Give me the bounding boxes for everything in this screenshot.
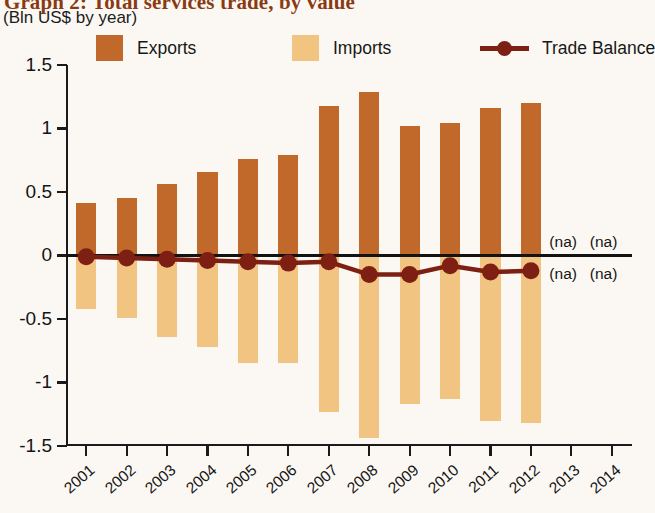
trade-balance-point-2007 xyxy=(320,253,337,270)
y-tick-label: -1.5 xyxy=(19,435,52,457)
exports-swatch-icon xyxy=(96,35,123,61)
y-tick-label: 1.5 xyxy=(26,54,52,76)
x-tick-label-2014: 2014 xyxy=(586,461,624,497)
trade-balance-point-2012 xyxy=(522,262,539,279)
x-tick-label-2006: 2006 xyxy=(263,461,301,497)
trade-balance-point-2006 xyxy=(280,255,297,272)
trade-balance-line xyxy=(86,257,531,275)
y-tick-label: 0.5 xyxy=(26,181,52,203)
plot-area: 1.510.50-0.5-1-1.5 200120022003200420052… xyxy=(66,65,632,446)
x-tick-label-2004: 2004 xyxy=(182,461,220,497)
x-tick-label-2011: 2011 xyxy=(465,461,502,496)
trade-balance-line-marker-icon xyxy=(480,35,529,61)
y-tick-label: 0 xyxy=(41,244,52,266)
legend-item-exports[interactable]: Exports xyxy=(96,34,196,62)
legend-item-imports[interactable]: Imports xyxy=(292,34,391,62)
y-tick-label: -1 xyxy=(35,371,52,393)
x-tick-label-2013: 2013 xyxy=(546,461,584,497)
legend-label-exports: Exports xyxy=(137,38,196,59)
trade-balance-point-2001 xyxy=(78,248,95,265)
trade-balance-point-2002 xyxy=(118,250,135,267)
x-tick-label-2007: 2007 xyxy=(303,461,341,497)
x-tick-label-2010: 2010 xyxy=(425,461,463,497)
na-label-upper-2013: (na) xyxy=(549,233,577,251)
chart-subtitle: (Bln US$ by year) xyxy=(3,8,137,28)
trade-balance-point-2010 xyxy=(442,257,459,274)
na-label-upper-2014: (na) xyxy=(590,233,618,251)
x-tick-label-2001: 2001 xyxy=(61,461,99,497)
imports-swatch-icon xyxy=(292,35,319,61)
x-tick-label-2012: 2012 xyxy=(505,461,543,497)
trade-balance-point-2009 xyxy=(401,266,418,283)
x-tick-label-2003: 2003 xyxy=(142,461,180,497)
trade-balance-point-2004 xyxy=(199,252,216,269)
x-tick-label-2002: 2002 xyxy=(101,461,139,497)
trade-balance-point-2005 xyxy=(239,253,256,270)
na-label-lower-2013: (na) xyxy=(549,265,577,283)
legend-label-imports: Imports xyxy=(333,38,391,59)
trade-balance-series xyxy=(66,65,632,446)
x-tick-label-2008: 2008 xyxy=(344,461,382,497)
x-tick-label-2009: 2009 xyxy=(384,461,422,497)
y-tick-label: -0.5 xyxy=(19,308,52,330)
trade-balance-point-2011 xyxy=(482,264,499,281)
trade-balance-point-2003 xyxy=(159,251,176,268)
x-tick-label-2005: 2005 xyxy=(222,461,260,497)
legend-item-trade-balance[interactable]: Trade Balance xyxy=(480,34,655,62)
chart-legend: Exports Imports Trade Balance xyxy=(96,34,644,62)
na-label-lower-2014: (na) xyxy=(590,265,618,283)
legend-label-trade-balance: Trade Balance xyxy=(542,38,655,59)
trade-balance-point-2008 xyxy=(361,266,378,283)
y-tick-label: 1 xyxy=(41,117,52,139)
